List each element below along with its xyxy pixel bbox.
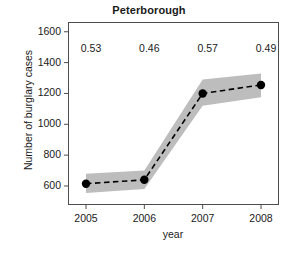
chart-figure: Peterborough Number of burglary cases ye… xyxy=(0,0,298,254)
plot-area xyxy=(0,0,298,254)
confidence-band xyxy=(86,73,261,193)
